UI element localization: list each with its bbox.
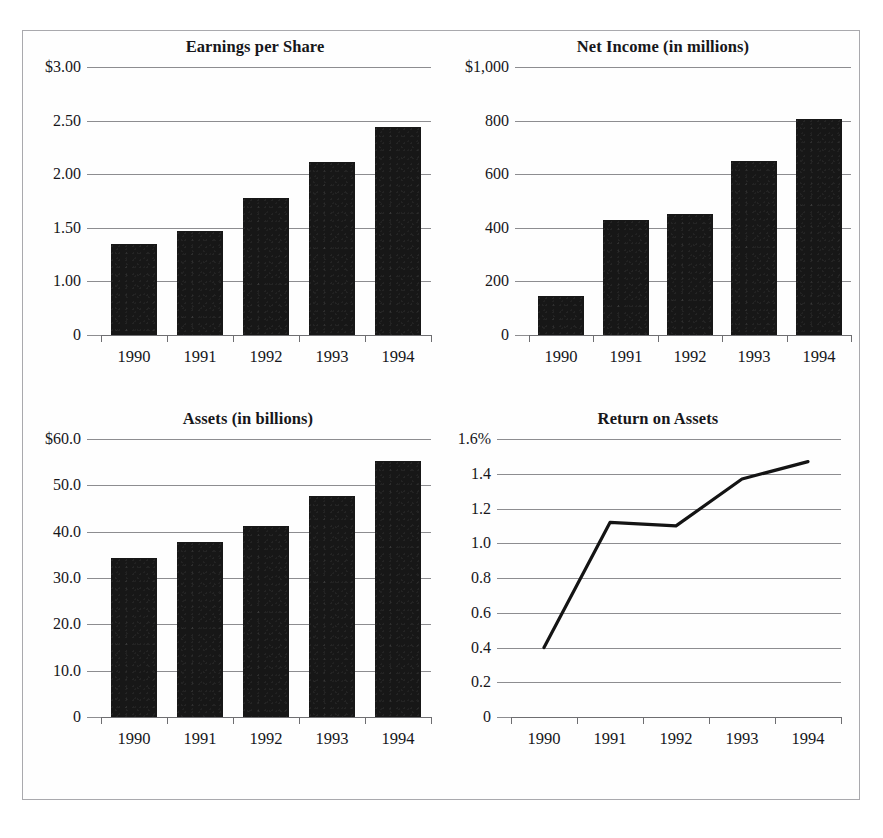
- x-axis-label-1990: 1990: [545, 347, 578, 367]
- bar-1991: [603, 220, 649, 335]
- gridline: [101, 121, 431, 122]
- y-axis-tick-label: $60.0: [27, 430, 81, 448]
- y-tick-mark: [87, 624, 101, 625]
- gridline: [101, 439, 431, 440]
- y-tick-mark: [87, 335, 101, 336]
- x-axis-label-1992: 1992: [250, 347, 283, 367]
- x-axis-baseline: [529, 335, 851, 336]
- x-axis-baseline: [101, 717, 431, 718]
- x-axis-label-1991: 1991: [594, 729, 627, 749]
- x-tick-mark: [233, 335, 234, 342]
- y-tick-mark: [87, 671, 101, 672]
- y-axis-tick-label: 1.00: [27, 272, 81, 290]
- bar-1991: [177, 542, 223, 717]
- x-axis-label-1990: 1990: [118, 347, 151, 367]
- x-axis-label-1990: 1990: [528, 729, 561, 749]
- y-tick-mark: [515, 67, 529, 68]
- x-tick-mark: [529, 335, 530, 342]
- y-tick-mark: [515, 281, 529, 282]
- x-tick-mark: [841, 717, 842, 724]
- plot-earnings-per-share: $3.002.502.001.501.000199019911992199319…: [27, 67, 431, 379]
- figure-frame: Earnings per Share $3.002.502.001.501.00…: [22, 30, 860, 800]
- y-axis-tick-label: 0: [441, 326, 509, 344]
- y-tick-mark: [87, 174, 101, 175]
- y-axis-tick-label: 200: [441, 272, 509, 290]
- bar-1991: [177, 231, 223, 335]
- y-axis-tick-label: $1,000: [441, 58, 509, 76]
- bar-1992: [243, 526, 289, 717]
- x-tick-mark: [722, 335, 723, 342]
- y-axis-tick-label: 800: [441, 112, 509, 130]
- x-tick-mark: [851, 335, 852, 342]
- x-axis-baseline: [101, 335, 431, 336]
- chart-title-assets: Assets (in billions): [27, 409, 439, 429]
- x-tick-mark: [299, 717, 300, 724]
- bar-1994: [375, 127, 421, 335]
- x-tick-mark: [775, 717, 776, 724]
- x-axis-label-1993: 1993: [726, 729, 759, 749]
- y-axis-tick-label: 600: [441, 165, 509, 183]
- line-series-return-on-assets: [441, 439, 841, 723]
- gridline: [529, 67, 851, 68]
- bar-1993: [731, 161, 777, 335]
- x-tick-mark: [709, 717, 710, 724]
- y-axis-tick-label: 50.0: [27, 476, 81, 494]
- x-axis-label-1991: 1991: [184, 729, 217, 749]
- y-axis-tick-label: 40.0: [27, 523, 81, 541]
- bar-1990: [538, 296, 584, 335]
- bar-1994: [796, 119, 842, 335]
- x-axis-label-1994: 1994: [382, 729, 415, 749]
- y-axis-tick-label: 0: [27, 326, 81, 344]
- bar-1993: [309, 496, 355, 717]
- x-tick-mark: [787, 335, 788, 342]
- x-tick-mark: [233, 717, 234, 724]
- chart-title-net-income: Net Income (in millions): [441, 37, 857, 57]
- y-tick-mark: [515, 228, 529, 229]
- plot-assets: $60.050.040.030.020.010.0019901991199219…: [27, 439, 431, 761]
- x-axis-label-1992: 1992: [250, 729, 283, 749]
- x-axis-label-1993: 1993: [316, 347, 349, 367]
- y-tick-mark: [87, 281, 101, 282]
- x-axis-label-1994: 1994: [792, 729, 825, 749]
- x-tick-mark: [101, 717, 102, 724]
- x-tick-mark: [431, 335, 432, 342]
- y-tick-mark: [87, 67, 101, 68]
- x-tick-mark: [658, 335, 659, 342]
- x-axis-label-1991: 1991: [184, 347, 217, 367]
- y-axis-tick-label: 2.50: [27, 112, 81, 130]
- chart-panel-return-on-assets: Return on Assets 1.6%1.41.21.00.80.60.40…: [441, 409, 857, 797]
- x-tick-mark: [593, 335, 594, 342]
- bar-1990: [111, 244, 157, 335]
- x-axis-label-1993: 1993: [738, 347, 771, 367]
- x-tick-mark: [101, 335, 102, 342]
- y-axis-tick-label: 30.0: [27, 569, 81, 587]
- x-axis-label-1990: 1990: [118, 729, 151, 749]
- gridline: [101, 67, 431, 68]
- chart-panel-net-income: Net Income (in millions) $1,000800600400…: [441, 37, 857, 415]
- y-tick-mark: [87, 121, 101, 122]
- chart-panel-assets: Assets (in billions) $60.050.040.030.020…: [27, 409, 439, 797]
- plot-return-on-assets: 1.6%1.41.21.00.80.60.40.2019901991199219…: [441, 439, 841, 761]
- x-tick-mark: [365, 335, 366, 342]
- chart-panel-grid: Earnings per Share $3.002.502.001.501.00…: [23, 31, 861, 801]
- y-tick-mark: [87, 578, 101, 579]
- y-axis-tick-label: 20.0: [27, 615, 81, 633]
- x-tick-mark: [511, 717, 512, 724]
- bar-1994: [375, 461, 421, 717]
- x-tick-mark: [431, 717, 432, 724]
- x-axis-label-1991: 1991: [610, 347, 643, 367]
- x-tick-mark: [365, 717, 366, 724]
- bar-1993: [309, 162, 355, 335]
- x-axis-label-1992: 1992: [674, 347, 707, 367]
- y-tick-mark: [87, 532, 101, 533]
- y-tick-mark: [87, 228, 101, 229]
- x-tick-mark: [643, 717, 644, 724]
- x-axis-label-1992: 1992: [660, 729, 693, 749]
- x-axis-label-1994: 1994: [803, 347, 836, 367]
- bar-1992: [667, 214, 713, 335]
- chart-title-earnings-per-share: Earnings per Share: [27, 37, 439, 57]
- bar-1990: [111, 558, 157, 717]
- y-axis-tick-label: 1.50: [27, 219, 81, 237]
- x-tick-mark: [577, 717, 578, 724]
- y-axis-tick-label: 400: [441, 219, 509, 237]
